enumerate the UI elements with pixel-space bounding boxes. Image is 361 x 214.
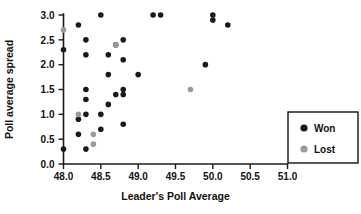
x-tick-label: 48.0 — [54, 171, 74, 182]
y-tick-label: 3.0 — [41, 10, 55, 21]
x-tick-label: 50.0 — [203, 171, 223, 182]
data-points-group — [61, 12, 231, 152]
x-axis-ticks: 48.048.549.049.550.050.551.0 — [54, 164, 298, 182]
y-tick-label: 2.0 — [41, 59, 55, 70]
data-point-won — [203, 62, 209, 68]
data-point-won — [76, 22, 82, 28]
data-point-won — [98, 112, 104, 118]
data-point-won — [106, 52, 112, 58]
data-point-won — [76, 117, 82, 123]
data-point-won — [120, 37, 126, 43]
y-tick-label: 0.0 — [41, 159, 55, 170]
data-point-won — [120, 92, 126, 98]
data-point-won — [113, 92, 119, 98]
data-point-lost — [76, 112, 82, 118]
x-axis-title: Leader's Poll Average — [121, 190, 230, 202]
y-tick-label: 2.5 — [41, 35, 55, 46]
legend-label-lost: Lost — [314, 144, 336, 155]
data-point-lost — [113, 42, 119, 48]
x-tick-label: 49.5 — [166, 171, 186, 182]
data-point-won — [83, 112, 89, 118]
data-point-won — [106, 102, 112, 108]
plot-svg: 48.048.549.049.550.050.551.0 0.00.51.01.… — [0, 0, 361, 214]
data-point-won — [83, 97, 89, 103]
legend: WonLost — [288, 112, 358, 163]
y-axis-title: Poll average spread — [3, 40, 15, 139]
legend-label-won: Won — [314, 123, 335, 134]
y-axis-ticks: 0.00.51.01.52.02.53.0 — [41, 10, 64, 170]
data-point-won — [98, 126, 104, 132]
data-point-won — [120, 121, 126, 127]
x-tick-label: 50.5 — [240, 171, 260, 182]
data-point-lost — [188, 87, 194, 93]
y-tick-label: 1.0 — [41, 109, 55, 120]
scatter-plot-figure: 48.048.549.049.550.050.551.0 0.00.51.01.… — [0, 0, 361, 214]
data-point-won — [61, 146, 67, 152]
legend-marker-lost — [300, 145, 307, 152]
x-tick-label: 51.0 — [278, 171, 298, 182]
data-point-lost — [91, 141, 97, 147]
data-point-won — [61, 47, 67, 53]
data-point-won — [83, 37, 89, 43]
data-point-won — [158, 12, 164, 18]
data-point-won — [76, 131, 82, 137]
data-point-won — [83, 87, 89, 93]
data-point-won — [83, 52, 89, 58]
data-point-won — [98, 12, 104, 18]
data-point-won — [135, 72, 141, 78]
data-point-won — [106, 72, 112, 78]
data-point-won — [210, 12, 216, 18]
data-point-lost — [61, 27, 67, 33]
data-point-won — [225, 22, 231, 28]
x-tick-label: 48.5 — [91, 171, 111, 182]
data-point-won — [210, 17, 216, 23]
axes-group — [64, 14, 288, 164]
data-point-won — [150, 12, 156, 18]
data-point-lost — [91, 131, 97, 137]
data-point-won — [83, 146, 89, 152]
data-point-won — [120, 87, 126, 93]
y-tick-label: 0.5 — [41, 134, 55, 145]
y-tick-label: 1.5 — [41, 84, 55, 95]
legend-marker-won — [300, 124, 307, 131]
legend-box — [288, 112, 358, 163]
x-tick-label: 49.0 — [128, 171, 148, 182]
data-point-won — [120, 57, 126, 63]
